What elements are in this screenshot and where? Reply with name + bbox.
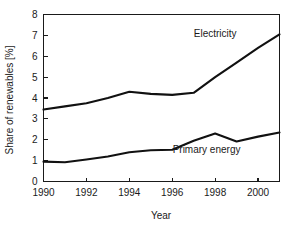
y-tick-label: 2 <box>32 134 38 145</box>
y-tick-labels: 012345678 <box>32 9 38 187</box>
chart-svg: 012345678 199019921994199619982000 Share… <box>0 0 292 228</box>
x-tick-label: 1996 <box>161 187 184 198</box>
series-label: Electricity <box>194 28 237 39</box>
x-tick-label: 1990 <box>32 187 55 198</box>
x-tick-label: 1992 <box>75 187 98 198</box>
y-tick-label: 4 <box>32 93 38 104</box>
y-axis-title-group: Share of renewables [%] <box>4 45 15 154</box>
y-tick-label: 6 <box>32 51 38 62</box>
x-tick-label: 1998 <box>204 187 227 198</box>
y-tick-label: 7 <box>32 30 38 41</box>
x-tick-label: 2000 <box>247 187 270 198</box>
x-tick-label: 1994 <box>118 187 141 198</box>
chart-figure: 012345678 199019921994199619982000 Share… <box>0 0 292 228</box>
y-tick-label: 0 <box>32 176 38 187</box>
y-tick-label: 1 <box>32 155 38 166</box>
y-axis-title: Share of renewables [%] <box>4 45 15 154</box>
y-tick-label: 8 <box>32 9 38 20</box>
y-tick-label: 3 <box>32 113 38 124</box>
series-label: Primary energy <box>173 144 241 155</box>
x-axis-title-group: Year <box>151 210 172 221</box>
y-tick-label: 5 <box>32 72 38 83</box>
x-axis-title: Year <box>151 210 172 221</box>
